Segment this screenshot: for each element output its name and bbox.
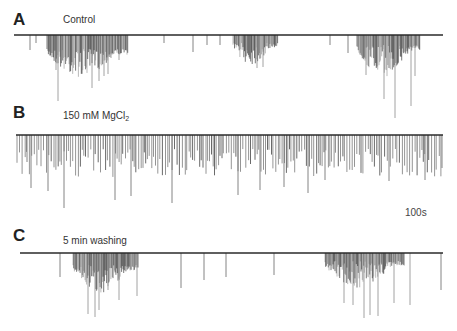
panel-c-label: 5 min washing bbox=[63, 236, 127, 246]
panel-b-label-main: 150 mM MgCl bbox=[63, 110, 125, 121]
panel-b-label: 150 mM MgCl2 bbox=[63, 111, 129, 122]
panel-c-letter: C bbox=[13, 227, 25, 244]
trace-a bbox=[14, 35, 443, 118]
trace-plot bbox=[0, 0, 457, 331]
panel-b-letter: B bbox=[13, 104, 25, 121]
trace-b bbox=[16, 135, 443, 208]
scale-bar-label: 100s bbox=[405, 208, 427, 218]
panel-a-label: Control bbox=[63, 15, 95, 25]
trace-c bbox=[20, 253, 443, 318]
panel-a-letter: A bbox=[13, 11, 25, 28]
panel-b-label-subscript: 2 bbox=[125, 115, 129, 122]
